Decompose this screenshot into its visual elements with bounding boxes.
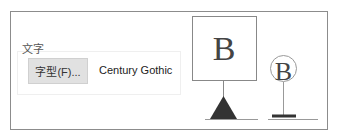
anchor-box-icon: B [193, 17, 257, 98]
small-glyph: B [275, 57, 292, 86]
preview-diagram: B B [0, 0, 355, 139]
circled-glyph-icon: B [271, 56, 297, 116]
bar-anchor-icon [268, 115, 318, 120]
large-glyph: B [213, 30, 236, 67]
triangle-anchor-icon [205, 96, 258, 120]
